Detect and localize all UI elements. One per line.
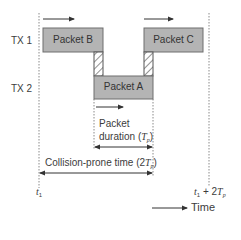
packet-duration-label: Packet duration (Tp) xyxy=(99,117,153,147)
t1-plus-2tp-label: t1 + 2Tp xyxy=(194,186,226,201)
row-label-tx2: TX 2 xyxy=(11,83,32,94)
collision-prone-text: Collision-prone time (2 xyxy=(45,157,145,168)
packet-duration-text: duration ( xyxy=(99,131,141,142)
collision-prone-close: ) xyxy=(154,157,157,168)
packet-duration-line2: duration (Tp) xyxy=(99,131,153,142)
packet-a-label: Packet A xyxy=(94,81,153,93)
packet-b-label: Packet B xyxy=(43,34,103,46)
row-label-tx1: TX 1 xyxy=(11,35,32,46)
t1-subscript: 1 xyxy=(39,192,42,198)
plus-two-text: + 2 xyxy=(200,186,217,197)
time-axis-label: Time xyxy=(191,202,215,213)
t1-label: t1 xyxy=(36,186,42,201)
packet-c-label: Packet C xyxy=(144,34,203,46)
end-tp-subscript: p xyxy=(223,192,226,198)
packet-duration-line1: Packet xyxy=(99,118,130,129)
collision-overlap-left xyxy=(94,52,103,76)
collision-prone-label: Collision-prone time (2Tp) xyxy=(45,157,157,172)
packet-duration-close: ) xyxy=(150,131,153,142)
collision-overlap-right xyxy=(144,52,153,76)
